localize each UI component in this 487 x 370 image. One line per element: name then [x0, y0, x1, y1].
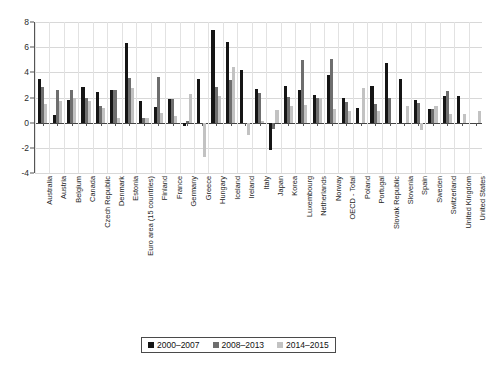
x-axis-tick-label: Slovak Republic: [392, 176, 401, 229]
plot-inner: [35, 22, 482, 173]
x-axis-tick-label: Australia: [45, 176, 54, 205]
bar: [160, 113, 163, 123]
x-axis-tick-label: Finland: [160, 176, 169, 200]
gridline-vertical: [411, 22, 412, 173]
gridline-vertical: [223, 22, 224, 173]
bar-group: [139, 22, 148, 173]
x-axis-tick-label: Sweden: [435, 176, 444, 203]
x-axis-tick-label: Switzerland: [449, 176, 458, 214]
bar-group: [284, 22, 293, 173]
bar: [145, 118, 148, 122]
x-axis-tick-label: Iceland: [233, 176, 242, 200]
x-axis-tick-label: Japan: [276, 176, 285, 196]
bar-group: [255, 22, 264, 173]
x-axis-tick-mark: [202, 123, 203, 126]
gridline-vertical: [93, 22, 94, 173]
bar-group: [327, 22, 336, 173]
bar-group: [183, 22, 192, 173]
x-axis-tick-label: Belgium: [74, 176, 83, 203]
legend-swatch: [277, 342, 283, 348]
bar: [420, 123, 423, 130]
bar: [399, 79, 402, 123]
gridline-vertical: [78, 22, 79, 173]
bar: [247, 123, 250, 136]
gridline-vertical: [367, 22, 368, 173]
bar: [304, 105, 307, 123]
legend-label: 2014–2015: [286, 340, 329, 350]
y-axis-tick-label: 6: [24, 42, 29, 52]
legend-swatch: [148, 342, 154, 348]
x-axis-tick-mark: [332, 123, 333, 126]
bar: [218, 96, 221, 122]
bar-group: [356, 22, 365, 173]
x-axis-tick-label: Czech Republic: [103, 176, 112, 228]
bar-group: [81, 22, 90, 173]
gridline-vertical: [237, 22, 238, 173]
gridline-vertical: [324, 22, 325, 173]
bar-group: [385, 22, 394, 173]
gridline-horizontal: [35, 173, 482, 174]
x-axis-tick-mark: [57, 123, 58, 126]
x-axis-tick-mark: [187, 123, 188, 126]
x-axis-tick-mark: [317, 123, 318, 126]
bar: [290, 106, 293, 123]
bar-group: [428, 22, 437, 173]
bar-group: [154, 22, 163, 173]
x-axis-tick-mark: [43, 123, 44, 126]
bar: [356, 108, 359, 123]
x-axis-tick-mark: [375, 123, 376, 126]
bar: [189, 94, 192, 122]
y-axis-tick-label: 2: [24, 93, 29, 103]
bar-group: [226, 22, 235, 173]
gridline-vertical: [469, 22, 470, 173]
y-axis-tick-label: -4: [21, 168, 29, 178]
bar-group: [211, 22, 220, 173]
bar: [362, 88, 365, 123]
x-axis-tick-mark: [418, 123, 419, 126]
x-axis-tick-label: Ireland: [247, 176, 256, 199]
bar: [203, 123, 206, 157]
chart-legend: 2000–20072008–20132014–2015: [141, 337, 336, 353]
bar: [319, 98, 322, 123]
y-axis: -4-202468: [0, 0, 34, 173]
gridline-vertical: [136, 22, 137, 173]
x-axis-tick-label: Netherlands: [319, 176, 328, 216]
gridline-vertical: [425, 22, 426, 173]
x-axis-tick-mark: [231, 123, 232, 126]
bar: [73, 98, 76, 123]
x-axis-tick-label: Spain: [420, 176, 429, 195]
gridline-vertical: [353, 22, 354, 173]
x-axis-tick-label: Canada: [88, 176, 97, 202]
x-axis-tick-label: France: [175, 176, 184, 199]
gridline-vertical: [49, 22, 50, 173]
bar: [174, 116, 177, 122]
bar-group: [67, 22, 76, 173]
bar: [449, 114, 452, 123]
bar: [258, 93, 261, 123]
bar: [131, 88, 134, 123]
bar-group: [298, 22, 307, 173]
x-axis-tick-mark: [433, 123, 434, 126]
gridline-vertical: [396, 22, 397, 173]
x-axis-tick-mark: [361, 123, 362, 126]
x-axis-tick-mark: [274, 123, 275, 126]
x-axis-tick-label: Portugal: [377, 176, 386, 204]
y-axis-tick-label: 0: [24, 118, 29, 128]
gridline-vertical: [165, 22, 166, 173]
gridline-vertical: [454, 22, 455, 173]
bar-group: [472, 22, 481, 173]
legend-label: 2000–2007: [157, 340, 200, 350]
bar: [240, 70, 243, 123]
bar: [348, 111, 351, 122]
x-axis-tick-mark: [72, 123, 73, 126]
x-axis-tick-label: Estonia: [131, 176, 140, 201]
bar: [261, 121, 264, 122]
x-axis-tick-mark: [404, 123, 405, 126]
bar-group: [399, 22, 408, 173]
x-axis-tick-label: Norway: [334, 176, 343, 201]
bar-group: [125, 22, 134, 173]
gridline-vertical: [122, 22, 123, 173]
bar-group: [110, 22, 119, 173]
x-axis-tick-mark: [158, 123, 159, 126]
x-axis-tick-mark: [245, 123, 246, 126]
